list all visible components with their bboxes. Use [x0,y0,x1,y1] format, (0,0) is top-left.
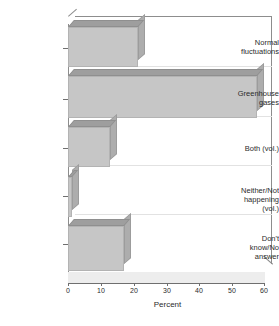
x-axis-title-text: Percent [154,300,182,309]
bar-top-face [68,219,130,226]
category-label-line: Normal [217,38,279,47]
category-label-both: Both (vol.) [217,144,279,153]
category-label-line: know/No [217,243,279,252]
bar-top-face [68,69,263,76]
bar-front-face [68,177,72,217]
category-label-line: answer [217,252,279,261]
y-tick-mark [63,48,68,49]
category-label-line: happening [217,195,279,204]
bar-top-face [68,120,116,127]
x-tick-mark [167,283,168,286]
bar-front-face [68,226,124,271]
category-label-normal-fluctuations: Normal fluctuations [217,38,279,56]
x-tick-label-10: 10 [91,287,111,294]
category-label-greenhouse-gases: Greenhouse gases [217,89,279,107]
category-label-line: Neither/Not [217,186,279,195]
x-tick-label-0: 0 [58,287,78,294]
gridline [75,214,272,215]
bar-top-face [68,20,144,27]
category-label-line: fluctuations [217,47,279,56]
x-tick-mark [134,283,135,286]
x-tick-label-40: 40 [189,287,209,294]
x-tick-mark [68,283,69,286]
category-label-line: Greenhouse [217,89,279,98]
bar-both [68,120,110,160]
category-label-line: gases [217,98,279,107]
y-tick-mark [63,196,68,197]
y-tick-mark [63,148,68,149]
x-tick-label-30: 30 [157,287,177,294]
plot-floor-face [68,272,265,283]
bar-front-face [68,27,138,67]
bar-neither-not-happening [68,170,72,210]
x-tick-mark [101,283,102,286]
category-label-neither-not-happening: Neither/Not happening (vol.) [217,186,279,213]
category-label-line: (vol.) [217,204,279,213]
x-tick-label-20: 20 [124,287,144,294]
y-tick-mark [63,244,68,245]
bar-front-face [68,127,110,167]
x-axis-title: Percent [0,300,279,309]
x-tick-label-60: 60 [254,287,274,294]
bar-dont-know-no-answer [68,219,124,264]
category-label-line: Both (vol.) [217,144,279,153]
y-tick-mark [63,99,68,100]
x-tick-mark [264,283,265,286]
x-tick-mark [199,283,200,286]
category-label-line: Don't [217,234,279,243]
category-label-dont-know-no-answer: Don't know/No answer [217,234,279,261]
x-tick-label-50: 50 [222,287,242,294]
chart-container: 0 10 20 30 40 50 60 Percent Normal fluct… [0,0,279,326]
bar-normal-fluctuations [68,20,138,60]
x-tick-mark [232,283,233,286]
